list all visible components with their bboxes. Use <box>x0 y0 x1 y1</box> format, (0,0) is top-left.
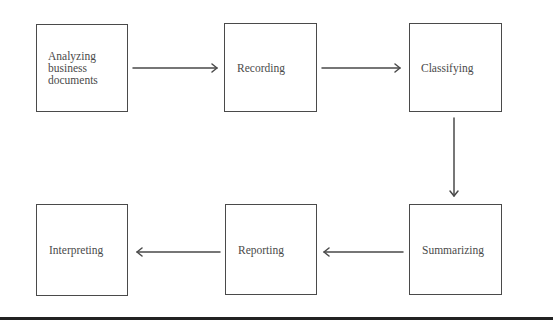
node-recording: Recording <box>224 23 317 112</box>
arrow-summarizing-to-reporting <box>324 248 403 256</box>
arrow-recording-to-classifying <box>322 64 400 72</box>
arrow-reporting-to-interpreting <box>137 248 220 256</box>
node-analyzing: Analyzing business documents <box>36 24 128 112</box>
node-interpreting: Interpreting <box>36 204 128 296</box>
node-label: Recording <box>225 62 285 74</box>
node-label: Analyzing business documents <box>37 50 98 86</box>
node-label: Interpreting <box>37 244 103 256</box>
bottom-rule-divider <box>0 317 553 320</box>
arrow-classifying-to-summarizing <box>450 118 458 196</box>
node-label: Reporting <box>226 244 284 256</box>
node-label: Summarizing <box>410 244 484 256</box>
node-classifying: Classifying <box>409 23 502 112</box>
arrow-analyzing-to-recording <box>133 64 217 72</box>
node-reporting: Reporting <box>225 204 317 295</box>
node-label: Classifying <box>410 62 473 74</box>
node-summarizing: Summarizing <box>409 204 502 295</box>
